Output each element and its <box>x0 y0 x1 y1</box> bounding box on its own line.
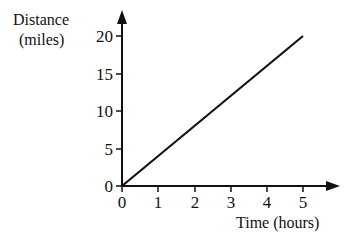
x-tick-label: 0 <box>118 193 127 212</box>
y-axis-label-line2: (miles) <box>19 31 64 49</box>
y-ticks: 0 5 10 15 20 <box>96 27 122 196</box>
y-tick-label: 5 <box>105 140 114 159</box>
x-ticks: 0 1 2 3 4 5 <box>118 186 308 212</box>
y-tick-label: 0 <box>105 177 114 196</box>
x-tick-label: 2 <box>191 193 200 212</box>
x-axis-arrow-icon <box>326 181 340 191</box>
x-tick-label: 3 <box>227 193 236 212</box>
y-tick-label: 20 <box>96 27 113 46</box>
series-line-distance <box>122 36 303 186</box>
chart: 0 5 10 15 20 0 1 2 3 4 5 Distance (miles… <box>0 0 351 247</box>
x-tick-label: 4 <box>263 193 272 212</box>
y-tick-label: 15 <box>96 65 113 84</box>
y-axis-label-line1: Distance <box>13 11 69 28</box>
x-axis-label: Time (hours) <box>236 214 319 232</box>
y-axis-arrow-icon <box>117 10 127 24</box>
x-tick-label: 1 <box>154 193 163 212</box>
y-tick-label: 10 <box>96 102 113 121</box>
x-tick-label: 5 <box>299 193 308 212</box>
